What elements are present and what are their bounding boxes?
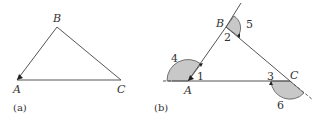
caption-b: (b) <box>154 102 168 113</box>
label-b: B <box>52 12 61 25</box>
panel-b: B A C 1 2 3 4 5 6 (b) <box>154 3 313 113</box>
arrowhead-a <box>17 74 23 80</box>
label-b-b: B <box>215 17 224 30</box>
angle-4-label: 4 <box>171 52 178 65</box>
angle-3-label: 3 <box>267 70 274 83</box>
panel-a: B A C (a) <box>12 12 126 113</box>
angle-2-label: 2 <box>224 31 231 44</box>
label-a: A <box>12 83 21 96</box>
angle-6-label: 6 <box>277 99 284 112</box>
label-a-b: A <box>183 84 192 97</box>
triangle-figure: B A C (a) B A C 1 2 3 4 5 6 (b) <box>0 0 326 121</box>
triangle-abc <box>17 27 121 80</box>
angle-1-label: 1 <box>197 70 204 83</box>
label-c: C <box>117 83 126 96</box>
angle-5-label: 5 <box>246 18 253 31</box>
exterior-angle-6 <box>271 81 304 99</box>
label-c-b: C <box>290 69 299 82</box>
caption-a: (a) <box>13 102 27 113</box>
